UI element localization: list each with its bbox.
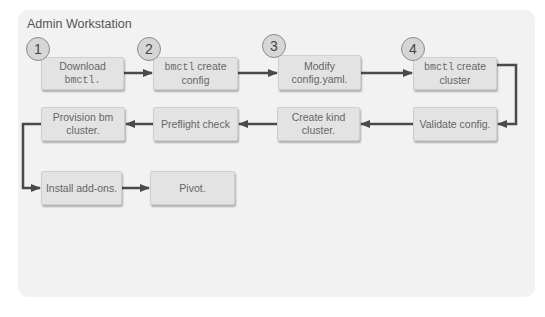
step-label: config	[181, 74, 209, 86]
step-create-kind-cluster: Create kind cluster.	[277, 107, 360, 141]
step-label: cluster	[440, 74, 471, 86]
step-label: Pivot.	[179, 182, 205, 195]
step-badge-4: 4	[401, 37, 425, 61]
step-download-bmctl: Download bmctl.	[41, 57, 124, 90]
step-validate-config: Validate config.	[413, 107, 497, 141]
step-badge-2: 2	[137, 37, 161, 61]
step-label: create	[454, 60, 486, 72]
step-label: cluster.	[66, 124, 99, 136]
step-label: Create kind	[292, 111, 346, 123]
step-badge-1: 1	[26, 37, 50, 61]
step-label: Preflight check	[161, 118, 230, 131]
step-create-config: bmctl create config	[153, 57, 238, 90]
step-label: config.yaml.	[291, 73, 347, 85]
step-label: Download	[59, 60, 106, 72]
step-create-cluster: bmctl create cluster	[413, 57, 497, 90]
arrow-4-validate	[497, 65, 516, 124]
arrow-provision-install	[23, 124, 41, 188]
step-modify-config: Modify config.yaml.	[278, 55, 361, 90]
step-preflight-check: Preflight check	[153, 107, 238, 141]
step-label: Validate config.	[419, 118, 490, 131]
step-label: Provision bm	[53, 111, 114, 123]
step-label-code: bmctl.	[64, 75, 100, 86]
step-provision-cluster: Provision bm cluster.	[41, 107, 125, 141]
step-badge-3: 3	[262, 34, 286, 58]
step-label: cluster.	[302, 124, 335, 136]
step-install-addons: Install add-ons.	[41, 171, 122, 205]
step-label-code: bmctl	[164, 62, 194, 73]
step-label: create	[194, 60, 226, 72]
step-label-code: bmctl	[424, 62, 454, 73]
step-pivot: Pivot.	[150, 171, 235, 205]
step-label: Modify	[304, 60, 335, 72]
step-label: Install add-ons.	[46, 182, 117, 195]
